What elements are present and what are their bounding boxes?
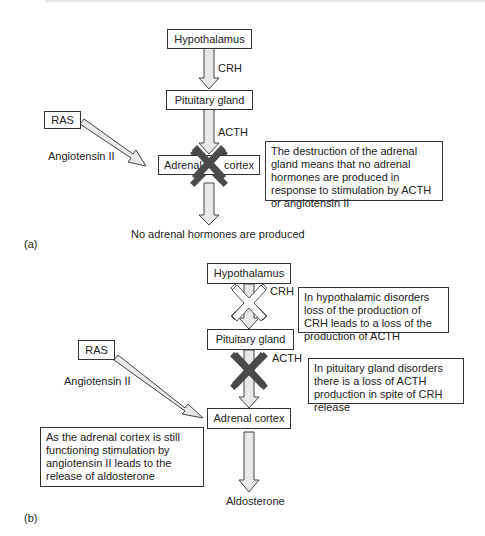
overlay-x-b [0,0,485,536]
